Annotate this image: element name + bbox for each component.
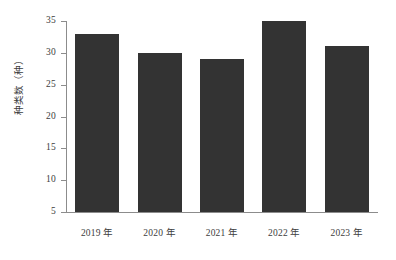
x-axis-label: 2023 年 [307, 225, 387, 239]
x-axis-line [66, 212, 378, 213]
y-axis-tick-label: 30 [22, 47, 56, 57]
plot-area [66, 21, 378, 212]
y-axis-tick-label: 35 [22, 15, 56, 25]
bar-2022-年 [262, 21, 306, 212]
y-axis-tick-label: 5 [22, 206, 56, 216]
y-axis-tick-label: 10 [22, 174, 56, 184]
bar-chart: 种类数（种） 3530252015105 2019 年2020 年2021 年2… [0, 0, 396, 260]
bar-2021-年 [200, 59, 244, 212]
bar-2019-年 [75, 34, 119, 212]
y-axis-tick-label: 20 [22, 111, 56, 121]
y-axis-tick [61, 212, 66, 213]
y-axis-tick-label: 15 [22, 142, 56, 152]
bar-2020-年 [138, 53, 182, 212]
y-axis-tick-label: 25 [22, 79, 56, 89]
bar-2023-年 [325, 46, 369, 212]
